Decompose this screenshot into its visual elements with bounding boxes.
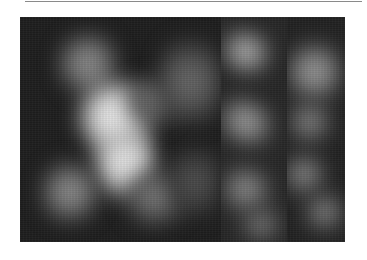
panel-right bbox=[287, 17, 345, 242]
panel-middle bbox=[221, 17, 287, 242]
horizontal-rule bbox=[25, 1, 362, 2]
panel-large bbox=[20, 17, 221, 242]
grayscale-figure bbox=[20, 17, 345, 242]
